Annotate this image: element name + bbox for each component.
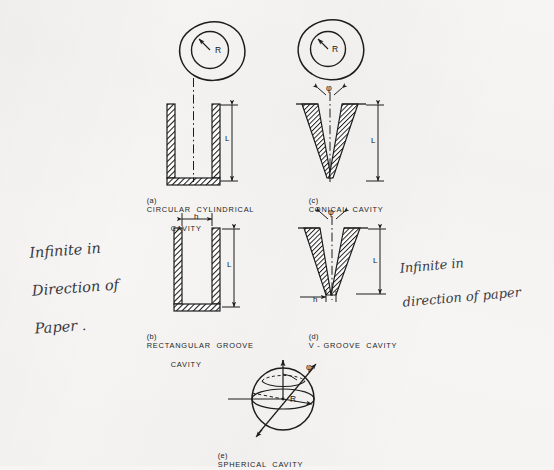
caption-text-a-line1: CIRCULAR CYLINDRICAL bbox=[147, 205, 255, 214]
caption-text-d-line1: V - GROOVE CAVITY bbox=[309, 341, 398, 350]
label-depth-d: L bbox=[373, 256, 377, 265]
label-radius-a: R bbox=[215, 45, 221, 55]
handwritten-note-left-line3: Paper . bbox=[34, 317, 87, 337]
caption-panel-e: (e) SPHERICAL CAVITY bbox=[212, 441, 303, 470]
handwritten-note-left-line2: Direction of bbox=[31, 277, 119, 299]
label-depth-c: L bbox=[371, 136, 375, 145]
label-radius-c: R bbox=[332, 44, 338, 54]
label-angle-e: φ bbox=[306, 362, 312, 372]
label-depth-a: L bbox=[225, 134, 229, 143]
panel-c-section bbox=[296, 88, 384, 182]
handwritten-note-left-line1: Infinite in bbox=[29, 240, 102, 261]
caption-panel-a: (a) CIRCULAR CYLINDRICAL CAVITY bbox=[141, 186, 254, 234]
caption-panel-d: (d) V - GROOVE CAVITY bbox=[303, 322, 397, 351]
handwritten-note-left: Infinite in Direction of Paper . bbox=[18, 219, 122, 339]
caption-text-c-line1: CONICAL CAVITY bbox=[309, 205, 384, 214]
caption-panel-b: (b) RECTANGULAR GROOVE CAVITY bbox=[141, 322, 254, 370]
caption-text-a-line2: CAVITY bbox=[171, 224, 202, 233]
label-width-d: h bbox=[313, 295, 317, 304]
panel-a-section bbox=[167, 78, 238, 185]
caption-text-b-line1: RECTANGULAR GROOVE bbox=[147, 341, 254, 350]
label-angle-c: φ bbox=[326, 83, 332, 93]
caption-tag-d: (d) bbox=[309, 332, 319, 341]
panel-c-top-view bbox=[298, 20, 364, 80]
caption-tag-c: (c) bbox=[309, 196, 319, 205]
caption-tag-e: (e) bbox=[218, 451, 228, 460]
label-radius-e: R bbox=[290, 394, 296, 404]
panel-a-top-view bbox=[180, 22, 245, 81]
panel-e-sphere bbox=[228, 360, 316, 437]
caption-text-e-line1: SPHERICAL CAVITY bbox=[218, 460, 303, 469]
label-depth-b: L bbox=[227, 260, 231, 269]
caption-tag-b: (b) bbox=[147, 332, 157, 341]
handwritten-note-right: Infinite in direction of paper bbox=[389, 233, 521, 312]
caption-panel-c: (c) CONICAL CAVITY bbox=[303, 186, 384, 215]
caption-text-b-line2: CAVITY bbox=[171, 360, 202, 369]
caption-tag-a: (a) bbox=[147, 196, 157, 205]
handwritten-note-right-line1: Infinite in bbox=[399, 255, 464, 276]
